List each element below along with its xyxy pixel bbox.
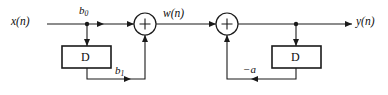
label-intermediate-signal: w(n) [163, 8, 184, 20]
arrowhead-b1-rail [124, 76, 131, 82]
label-feedforward-gain-b0: b0 [79, 5, 88, 17]
arrowhead-output [345, 21, 352, 27]
arrowhead-into-adder-left-bottom [142, 35, 148, 42]
diagram-canvas [0, 0, 388, 95]
arrowhead-into-delay-left [84, 39, 90, 46]
arrowhead-into-adder-right [209, 21, 216, 27]
label-feedforward-gain-b1: b1 [115, 65, 124, 77]
arrowhead-input-forward [97, 21, 104, 27]
label-feedback-gain: −a [243, 64, 256, 75]
label-output-signal: y(n) [356, 16, 375, 28]
arrowhead-feedback-rail [251, 76, 258, 82]
block-diagram-figure: x(n) w(n) y(n) b0 b1 −a D D [0, 0, 388, 95]
label-b0-subscript: 0 [85, 9, 89, 18]
label-delay-right: D [291, 51, 300, 63]
arrowhead-into-adder-left [127, 21, 134, 27]
label-input-signal: x(n) [11, 16, 30, 28]
label-delay-left: D [81, 51, 90, 63]
arrowhead-into-adder-right-bottom [224, 35, 230, 42]
label-b1-subscript: 1 [121, 69, 125, 78]
arrowhead-into-delay-right [293, 39, 299, 46]
